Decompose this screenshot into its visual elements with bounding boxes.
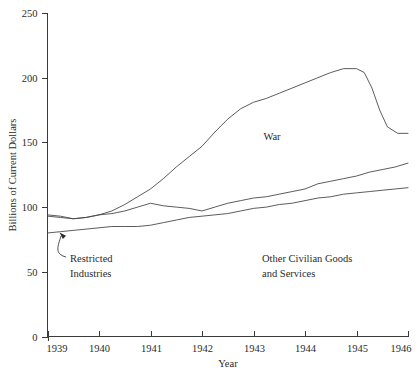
series-line-war (48, 69, 409, 219)
x-tick-label-1944: 1944 (295, 343, 317, 354)
y-axis-tick-labels: 050100150200250 (22, 8, 38, 343)
series-line-other-civilian-goods-and-services (48, 163, 409, 219)
x-axis-tick-labels: 19391940194119421943194419451946 (47, 343, 412, 354)
y-tick-label-150: 150 (22, 137, 38, 148)
chart-container: 050100150200250 193919401941194219431944… (0, 0, 416, 376)
y-axis-ticks (42, 14, 48, 338)
y-axis-title: Billions of Current Dollars (7, 119, 18, 232)
annotation-war: War (263, 131, 281, 142)
x-tick-label-1941: 1941 (141, 343, 162, 354)
x-tick-label-1942: 1942 (192, 343, 213, 354)
y-tick-label-50: 50 (27, 267, 38, 278)
y-tick-label-0: 0 (32, 332, 37, 343)
annotation-other-civilian-line2: and Services (262, 268, 315, 279)
annotation-other-civilian-line1: Other Civilian Goods (262, 253, 352, 264)
y-tick-label-250: 250 (22, 8, 38, 19)
x-tick-label-1940: 1940 (89, 343, 110, 354)
y-tick-label-200: 200 (22, 73, 38, 84)
x-tick-label-1943: 1943 (244, 343, 265, 354)
y-tick-label-100: 100 (22, 202, 38, 213)
annotation-restricted-line2: Industries (70, 268, 111, 279)
annotation-restricted-line1: Restricted (70, 253, 113, 264)
x-tick-label-1946: 1946 (391, 343, 412, 354)
restricted-industries-leader-line (58, 236, 66, 257)
series-line-restricted-industries (48, 188, 409, 233)
x-tick-label-1945: 1945 (347, 343, 368, 354)
line-chart: 050100150200250 193919401941194219431944… (0, 0, 416, 376)
x-axis-title: Year (218, 358, 238, 369)
x-axis-ticks (49, 331, 409, 341)
x-tick-label-1939: 1939 (47, 343, 68, 354)
